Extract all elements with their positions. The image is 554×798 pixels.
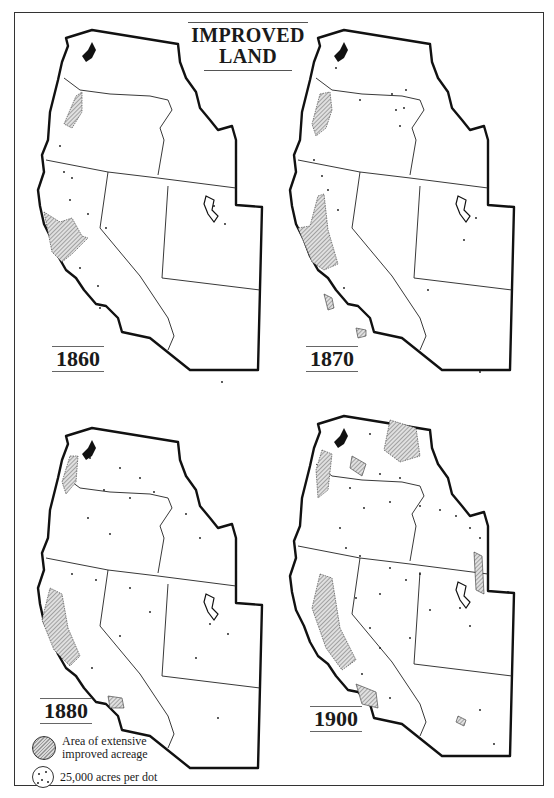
- dot-icon: [32, 766, 54, 788]
- map-panel-1860: 1860: [0, 0, 280, 400]
- map-panel-1870: 1870: [280, 0, 554, 400]
- year-label: 1870: [306, 346, 358, 372]
- year-label: 1880: [40, 698, 92, 724]
- year-label: 1860: [52, 346, 104, 372]
- legend-item-area: Area of extensive improved acreage: [32, 735, 157, 761]
- legend-label: Area of extensive improved acreage: [62, 735, 148, 761]
- map-panel-1900: 1900: [280, 398, 554, 786]
- hatched-area-icon: [32, 736, 56, 760]
- map-panel-1880: 1880: [0, 398, 280, 786]
- legend-item-dot: 25,000 acres per dot: [32, 766, 157, 788]
- map-legend: Area of extensive improved acreage 25,00…: [32, 735, 157, 793]
- year-label: 1900: [310, 706, 362, 732]
- legend-label: 25,000 acres per dot: [60, 771, 157, 784]
